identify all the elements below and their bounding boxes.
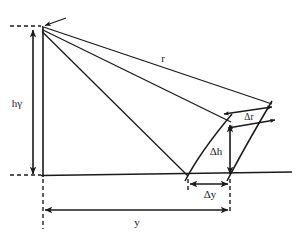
diagram-canvas: hγ r Δr Δh Δy y bbox=[0, 0, 299, 238]
ray-lower-to-base-mid bbox=[42, 32, 188, 177]
inner-arc bbox=[185, 114, 232, 181]
slant-range-label: r bbox=[161, 52, 165, 64]
geometry-figure: hγ r Δr Δh Δy y bbox=[0, 0, 299, 238]
delta-r-label: Δr bbox=[244, 112, 254, 122]
horizontal-distance-label: y bbox=[134, 216, 140, 228]
height-label: hγ bbox=[12, 97, 23, 109]
ray-mid-to-inner-arc bbox=[42, 30, 231, 123]
horizontal-baseline bbox=[41, 172, 292, 176]
apex-pointer-arrow bbox=[45, 18, 66, 26]
delta-h-label: Δh bbox=[210, 145, 223, 157]
delta-y-label: Δy bbox=[204, 188, 217, 200]
